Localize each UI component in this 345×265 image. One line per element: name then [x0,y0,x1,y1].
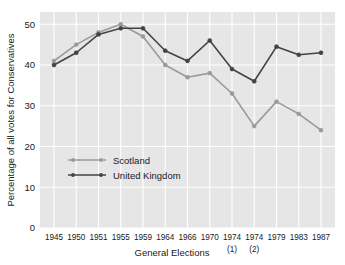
x-axis-title: General Elections [135,247,210,258]
x-tick-label: 1974 [223,233,242,242]
x-tick-sublabel: (1) [227,245,237,254]
data-point [275,100,279,104]
x-tick-label: 1987 [312,233,331,242]
data-point [297,53,301,57]
x-tick-label: 1955 [112,233,131,242]
data-point [74,51,78,55]
data-point [252,124,256,128]
y-tick-label: 40 [24,59,35,70]
x-tick-label: 1951 [89,233,108,242]
legend-label: Scotland [113,155,150,166]
y-tick-label: 50 [24,19,35,30]
data-point [141,26,145,30]
x-tick-label: 1970 [201,233,220,242]
y-tick-label: 20 [24,141,35,152]
line-chart: 01020304050 1945195019511955195919641966… [0,0,345,265]
legend-marker [71,173,75,177]
data-point [74,43,78,47]
data-point [163,49,167,53]
x-tick-label: 1964 [156,233,175,242]
data-point [186,59,190,63]
data-point [186,75,190,79]
x-tick-label: 1945 [45,233,64,242]
y-tick-label: 0 [30,222,35,233]
data-point [275,45,279,49]
x-tick-label: 1959 [134,233,153,242]
data-point [141,35,145,39]
data-point [230,67,234,71]
x-tick-label: 1983 [290,233,309,242]
data-point [252,79,256,83]
data-point [319,128,323,132]
data-point [208,39,212,43]
data-point [52,63,56,67]
y-tick-label: 30 [24,100,35,111]
legend-marker [99,173,103,177]
legend-marker [99,158,103,162]
x-tick-label: 1950 [67,233,86,242]
data-point [119,22,123,26]
data-point [119,26,123,30]
data-point [230,92,234,96]
x-tick-label: 1974 [245,233,264,242]
legend-marker [71,158,75,162]
y-tick-label: 10 [24,182,35,193]
chart-figure: 01020304050 1945195019511955195919641966… [0,0,345,265]
data-point [52,59,56,63]
x-tick-sublabel: (2) [249,245,259,254]
y-axis-title: Percentage of all votes for Conservative… [5,33,16,206]
legend-label: United Kingdom [113,170,181,181]
x-tick-label: 1966 [178,233,197,242]
data-point [163,63,167,67]
data-point [297,112,301,116]
x-tick-label: 1979 [267,233,286,242]
data-point [97,33,101,37]
data-point [319,51,323,55]
data-point [208,71,212,75]
